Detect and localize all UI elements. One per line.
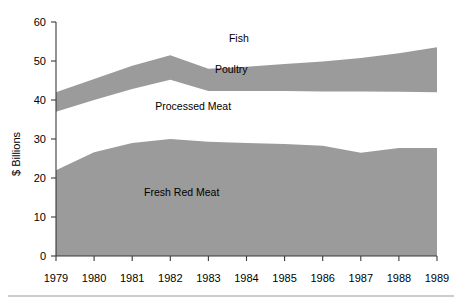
x-tick-label: 1982	[158, 272, 182, 284]
x-tick-label: 1979	[44, 272, 68, 284]
y-tick-label: 50	[34, 55, 46, 67]
series-label-fresh-red-meat: Fresh Red Meat	[144, 186, 219, 198]
x-tick-label: 1981	[120, 272, 144, 284]
y-tick-label: 60	[34, 16, 46, 28]
y-tick-label: 20	[34, 172, 46, 184]
y-tick-label: 0	[40, 250, 46, 262]
x-tick-label: 1980	[82, 272, 106, 284]
y-tick-label: 30	[34, 133, 46, 145]
band-fresh-red-meat	[56, 139, 437, 256]
chart-canvas: 0102030405060 19791980198119821983198419…	[0, 0, 462, 308]
x-tick-label: 1985	[272, 272, 296, 284]
x-axis-tick-labels: 1979198019811982198319841985198619871988…	[44, 272, 449, 284]
series-label-processed-meat: Processed Meat	[155, 100, 231, 112]
y-tick-label: 40	[34, 94, 46, 106]
y-tick-label: 10	[34, 211, 46, 223]
x-tick-label: 1988	[387, 272, 411, 284]
area-chart: 0102030405060 19791980198119821983198419…	[0, 0, 462, 308]
x-tick-label: 1983	[196, 272, 220, 284]
data-bands	[56, 47, 437, 256]
series-label-fish: Fish	[229, 32, 249, 44]
x-tick-label: 1984	[234, 272, 258, 284]
x-tick-label: 1987	[349, 272, 373, 284]
x-tick-label: 1986	[310, 272, 334, 284]
x-tick-label: 1989	[425, 272, 449, 284]
y-axis-title: $ Billions	[10, 131, 22, 176]
series-label-poultry: Poultry	[215, 63, 248, 75]
